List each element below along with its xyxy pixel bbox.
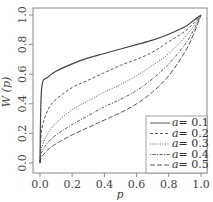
x-tick-label: 1.0 (192, 178, 210, 191)
y-tick-label: 0.4 (16, 95, 29, 113)
y-tick-label: 0.2 (16, 125, 29, 143)
y-tick-label: 0.0 (16, 154, 29, 172)
y-tick-label: 0.6 (16, 65, 29, 83)
x-tick-label: 0.4 (96, 178, 114, 191)
x-tick-label: 0.8 (160, 178, 178, 191)
y-tick-label: 0.8 (16, 36, 29, 54)
y-tick-label: 1.0 (16, 6, 29, 24)
y-axis-label: W (p) (0, 77, 13, 107)
legend: a= 0.1a= 0.2a= 0.3a= 0.4a= 0.5 (146, 116, 209, 173)
legend-label: a= 0.5 (172, 158, 209, 171)
y-axis: 0.00.20.40.60.81.0 (16, 6, 33, 172)
x-tick-label: 0.6 (128, 178, 146, 191)
x-axis-label: p (116, 188, 123, 201)
x-tick-label: 0.0 (31, 178, 49, 191)
line-chart: 0.00.20.40.60.81.0 0.00.20.40.60.81.0 a=… (0, 0, 213, 202)
x-tick-label: 0.2 (63, 178, 81, 191)
